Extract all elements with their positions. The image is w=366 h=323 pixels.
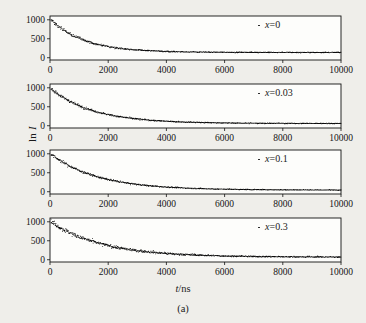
- x-tick-label: 8000: [273, 133, 292, 143]
- x-tick-label: 0: [48, 65, 53, 75]
- decay-plot-canvas: 0500100002000400060008000100000500100002…: [0, 0, 366, 323]
- legend-value: =0.03: [270, 87, 293, 98]
- x-tick-label: 6000: [215, 65, 234, 75]
- plot-frame: [50, 84, 341, 128]
- x-tick-label: 4000: [157, 267, 176, 277]
- legend-marker-dot: [258, 93, 260, 95]
- y-tick-label: 1000: [26, 217, 45, 227]
- legend-label-0.3: x=0.3: [265, 221, 288, 232]
- panel-x003: 050010000200040006000800010000: [26, 83, 353, 143]
- x-tick-label: 10000: [329, 267, 353, 277]
- legend-value: =0.1: [270, 153, 288, 164]
- y-tick-label: 500: [31, 34, 46, 44]
- x-tick-label: 0: [48, 133, 53, 143]
- y-tick-label: 0: [40, 53, 45, 63]
- legend-marker-dot: [258, 25, 260, 27]
- y-tick-label: 1000: [26, 83, 45, 93]
- x-tick-label: 2000: [99, 65, 118, 75]
- legend-label-0: x=0: [265, 19, 280, 30]
- y-tick-label: 0: [40, 121, 45, 131]
- plot-frame: [50, 16, 341, 60]
- x-tick-label: 6000: [215, 199, 234, 209]
- x-tick-label: 6000: [215, 267, 234, 277]
- legend-value: =0.3: [270, 221, 288, 232]
- x-axis-label-unit: /ns: [178, 283, 190, 294]
- y-tick-label: 1000: [26, 149, 45, 159]
- x-tick-label: 10000: [329, 65, 353, 75]
- legend-value: =0: [270, 19, 281, 30]
- decay-figure: ln I 05001000020004000600080001000005001…: [0, 0, 366, 323]
- x-tick-label: 10000: [329, 199, 353, 209]
- x-tick-label: 6000: [215, 133, 234, 143]
- panel-x03: 050010000200040006000800010000: [26, 217, 353, 277]
- y-tick-label: 0: [40, 255, 45, 265]
- y-tick-label: 0: [40, 187, 45, 197]
- plot-frame: [50, 150, 341, 194]
- x-tick-label: 2000: [99, 133, 118, 143]
- panel-x01: 050010000200040006000800010000: [26, 149, 353, 209]
- y-tick-label: 500: [31, 236, 46, 246]
- legend-label-0.03: x=0.03: [265, 87, 293, 98]
- legend-marker-dot: [258, 159, 260, 161]
- y-tick-label: 500: [31, 168, 46, 178]
- panel-stack: 0500100002000400060008000100000500100002…: [0, 0, 366, 323]
- x-tick-label: 8000: [273, 267, 292, 277]
- x-tick-label: 4000: [157, 133, 176, 143]
- x-tick-label: 2000: [99, 267, 118, 277]
- x-tick-label: 0: [48, 267, 53, 277]
- legend-marker-dot: [258, 227, 260, 229]
- x-tick-label: 10000: [329, 133, 353, 143]
- x-tick-label: 8000: [273, 199, 292, 209]
- x-tick-label: 4000: [157, 65, 176, 75]
- figure-caption: (a): [0, 303, 366, 314]
- x-tick-label: 8000: [273, 65, 292, 75]
- y-tick-label: 1000: [26, 15, 45, 25]
- x-tick-label: 0: [48, 199, 53, 209]
- y-tick-label: 500: [31, 102, 46, 112]
- legend-label-0.1: x=0.1: [265, 153, 288, 164]
- x-tick-label: 2000: [99, 199, 118, 209]
- x-axis-label: t/ns: [0, 283, 366, 294]
- x-tick-label: 4000: [157, 199, 176, 209]
- panel-x0: 050010000200040006000800010000: [26, 15, 353, 75]
